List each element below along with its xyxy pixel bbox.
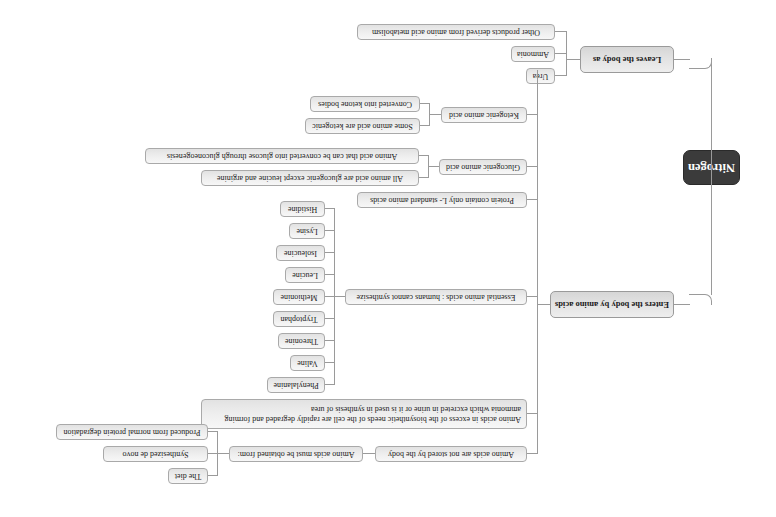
connector-ketogenic-converted: [420, 103, 430, 104]
connector-essential-isoleucine: [325, 252, 335, 253]
connector-leaves-other: [555, 31, 567, 32]
connector-glucogenic-converted: [419, 155, 429, 156]
node-other-products-label: Other products derived from amino acid m…: [372, 27, 540, 37]
node-glucogenic-amino-acid[interactable]: Glucogenic amino acid: [439, 159, 527, 175]
node-isoleucine-label: Isoleucine: [284, 248, 317, 258]
node-converted-into-ketone-bodies-label: Converted into ketone bodies: [318, 99, 412, 109]
connector-root-to-leaves-tail: [674, 59, 690, 60]
node-methionine[interactable]: Methionine: [273, 289, 325, 305]
connector-ketogenic-stub: [430, 114, 441, 115]
connector-root-to-enters: [689, 294, 712, 305]
node-essential-amino-acids[interactable]: Essential amino acids : humans cannot sy…: [345, 289, 527, 305]
connector-glucogenic-stub: [429, 166, 439, 167]
node-ammonia-label: Ammonia: [517, 49, 549, 59]
node-synthesized-de-novo-label: Synthesized de novo: [122, 449, 188, 459]
node-other-products[interactable]: Other products derived from amino acid m…: [357, 24, 555, 40]
connector-essential-spine: [334, 209, 335, 385]
connector-leaves-ammonia: [555, 53, 567, 54]
connector-enters-stub: [538, 304, 550, 305]
node-lysine-label: Lysine: [296, 226, 317, 236]
node-protein-contain-only-l-standard-label: Protein contain only L- standard amino a…: [370, 195, 514, 205]
connector-not-stored-stub: [363, 453, 375, 454]
node-amino-acids-not-stored[interactable]: Amino acids are not stored by the body: [375, 446, 527, 462]
connector-leaves-stub: [567, 59, 580, 60]
node-tryptophan-label: Tryptophan: [280, 314, 317, 324]
node-threonine-label: Threonine: [285, 336, 318, 346]
connector-essential-histidine: [325, 208, 335, 209]
root-spine: [711, 60, 712, 295]
connector-enters-essential: [527, 296, 538, 297]
node-amino-acids-not-stored-label: Amino acids are not stored by the body: [388, 449, 514, 459]
node-amino-acid-converted-gluconeogenesis-label: Amino acid that can be converted into gl…: [167, 151, 397, 161]
node-amino-acids-must-be-obtained-label: Amino acids must be obtained from:: [237, 449, 354, 459]
connector-essential-phenylalanine: [325, 384, 335, 385]
node-amino-acids-must-be-obtained[interactable]: Amino acids must be obtained from:: [229, 446, 363, 462]
connector-leaves-urea: [555, 75, 567, 76]
connector-essential-tryptophan: [325, 318, 335, 319]
mindmap-canvas: Nitrogen Leaves the body as Urea Ammonia…: [0, 0, 776, 517]
node-amino-acid-converted-gluconeogenesis[interactable]: Amino acid that can be converted into gl…: [145, 148, 419, 164]
node-urea-label: Urea: [533, 71, 549, 81]
node-leucine[interactable]: Leucine: [285, 267, 325, 283]
node-valine-label: Valine: [297, 358, 317, 368]
node-isoleucine[interactable]: Isoleucine: [276, 245, 325, 261]
connector-enters-not-stored: [527, 453, 538, 454]
connector-enters-glucogenic: [527, 166, 538, 167]
connector-essential-leucine: [325, 274, 335, 275]
node-converted-into-ketone-bodies[interactable]: Converted into ketone bodies: [310, 96, 420, 112]
connector-obtained-diet: [208, 475, 218, 476]
connector-essential-threonine: [325, 340, 335, 341]
node-essential-amino-acids-label: Essential amino acids : humans cannot sy…: [356, 292, 515, 302]
node-synthesized-de-novo[interactable]: Synthesized de novo: [103, 446, 208, 462]
connector-ketogenic-some: [420, 125, 430, 126]
connector-leaves-spine: [566, 32, 567, 76]
connector-obtained-degradation: [208, 431, 218, 432]
connector-enters-spine-ext-low: [537, 70, 538, 181]
node-amino-acids-in-excess[interactable]: Amino acids in excess of the biosyntheti…: [201, 399, 527, 429]
node-leucine-label: Leucine: [292, 270, 318, 280]
connector-obtained-denovo: [208, 453, 218, 454]
node-the-diet-label: The diet: [175, 471, 201, 481]
node-urea[interactable]: Urea: [526, 68, 555, 84]
node-phenylalanine-label: Phenylalanine: [273, 380, 318, 390]
node-some-amino-acid-are-ketogenic[interactable]: Some amino acid are ketogenic: [305, 118, 420, 134]
branch-leaves-the-body-as[interactable]: Leaves the body as: [580, 46, 674, 73]
node-histidine-label: Histidine: [288, 204, 317, 214]
connector-enters-excess: [527, 413, 538, 414]
connector-glucogenic-spine: [428, 156, 429, 178]
branch-leaves-the-body-as-label: Leaves the body as: [593, 54, 661, 64]
node-the-diet[interactable]: The diet: [168, 468, 208, 484]
node-tryptophan[interactable]: Tryptophan: [273, 311, 325, 327]
node-phenylalanine[interactable]: Phenylalanine: [267, 377, 325, 393]
node-some-amino-acid-are-ketogenic-label: Some amino acid are ketogenic: [312, 121, 412, 131]
connector-obtained-spine: [217, 432, 218, 476]
node-all-amino-acid-glucogenic[interactable]: All amino acid are glucogenic except leu…: [201, 170, 419, 186]
branch-enters-the-body[interactable]: Enters the body by amino acids: [550, 291, 674, 318]
connector-glucogenic-all: [419, 177, 429, 178]
node-lysine[interactable]: Lysine: [289, 223, 325, 239]
node-valine[interactable]: Valine: [290, 355, 325, 371]
node-ketogenic-amino-acid-label: Ketogenic amino acid: [449, 110, 519, 120]
connector-root-to-leaves: [689, 58, 712, 69]
branch-enters-the-body-label: Enters the body by amino acids: [555, 299, 669, 309]
connector-essential-valine: [325, 362, 335, 363]
node-produced-from-normal-protein-degradation[interactable]: Produced from normal protein degradation: [56, 424, 208, 440]
connector-essential-lysine: [325, 230, 335, 231]
connector-root-to-enters-tail: [674, 304, 690, 305]
node-protein-contain-only-l-standard[interactable]: Protein contain only L- standard amino a…: [357, 192, 527, 208]
node-produced-from-normal-protein-degradation-label: Produced from normal protein degradation: [64, 427, 201, 437]
connector-ketogenic-spine: [429, 104, 430, 126]
node-methionine-label: Methionine: [281, 292, 318, 302]
node-amino-acids-in-excess-label: Amino acids in excess of the biosyntheti…: [207, 404, 521, 424]
connector-enters-protein: [527, 199, 538, 200]
connector-obtained-stub: [218, 453, 229, 454]
node-glucogenic-amino-acid-label: Glucogenic amino acid: [446, 162, 520, 172]
connector-essential-stub: [335, 296, 345, 297]
node-threonine[interactable]: Threonine: [278, 333, 325, 349]
node-ketogenic-amino-acid[interactable]: Ketogenic amino acid: [441, 107, 527, 123]
node-ammonia[interactable]: Ammonia: [511, 46, 555, 62]
node-all-amino-acid-glucogenic-label: All amino acid are glucogenic except leu…: [217, 173, 403, 183]
node-histidine[interactable]: Histidine: [280, 201, 325, 217]
connector-essential-methionine: [325, 296, 335, 297]
